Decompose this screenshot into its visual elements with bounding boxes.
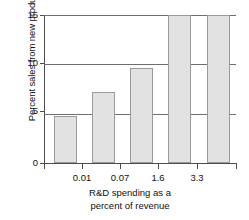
x-axis-title-line-2: percent of revenue — [30, 199, 230, 212]
x-tick-mark-end — [236, 164, 237, 169]
bar-chart: Percent sales from new products 15 10 5 … — [0, 0, 249, 35]
bar-5 — [207, 15, 230, 163]
x-tick-mark-3.3 — [197, 164, 198, 169]
x-axis-title: R&D spending as a percent of revenue — [30, 186, 230, 212]
x-tick-mark-1.6 — [158, 164, 159, 169]
bar-1 — [54, 116, 77, 163]
x-axis-title-line-1: R&D spending as a — [30, 186, 230, 199]
bar-2 — [92, 92, 115, 163]
x-tick-mark-0.07 — [120, 164, 121, 169]
bar-3 — [130, 68, 153, 163]
x-axis-line — [44, 163, 237, 164]
y-axis-title: Percent sales from new products — [26, 0, 37, 139]
y-tick-label-0: 0 — [22, 158, 38, 168]
x-tick-label-0.07: 0.07 — [103, 172, 137, 183]
plot-area — [44, 15, 236, 163]
x-tick-label-0.01: 0.01 — [65, 172, 99, 183]
x-tick-mark-0.01 — [82, 164, 83, 169]
x-tick-mark-start — [44, 164, 45, 169]
x-tick-label-1.6: 1.6 — [141, 172, 175, 183]
x-tick-label-3.3: 3.3 — [180, 172, 214, 183]
bar-4 — [168, 15, 191, 163]
